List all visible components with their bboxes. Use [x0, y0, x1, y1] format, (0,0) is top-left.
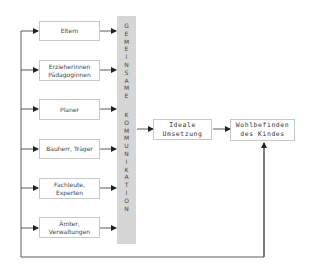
communication-band: GEMEINSAME KOMMUNIKATION	[117, 16, 136, 244]
band-letter: A	[117, 173, 136, 181]
band-letter: O	[117, 197, 136, 205]
box-label: des Kindes	[240, 130, 284, 139]
wohlbefinden-box: Wohlbefinden des Kindes	[230, 119, 295, 141]
source-box-fachleute: Fachleute, Experten	[39, 178, 100, 199]
source-label: Erzieherinnen	[49, 63, 91, 71]
band-letter: G	[117, 22, 136, 30]
band-letter: E	[117, 45, 136, 53]
band-letter: I	[117, 158, 136, 166]
band-letter: K	[117, 166, 136, 174]
band-letter: M	[117, 134, 136, 142]
band-letter: U	[117, 142, 136, 150]
band-letter: M	[117, 38, 136, 46]
band-letter: N	[117, 150, 136, 158]
band-letter: M	[117, 84, 136, 92]
source-label: Verwaltungen	[49, 228, 90, 236]
source-box-planer: Planer	[39, 99, 100, 120]
box-label: Wohlbefinden	[236, 121, 289, 130]
source-box-eltern: Eltern	[39, 21, 100, 41]
source-box-aemter: Ämter, Verwaltungen	[39, 217, 100, 238]
band-letter: T	[117, 181, 136, 189]
source-box-erzieherinnen: Erzieherinnen Pädagoginnen	[39, 60, 100, 81]
band-letter: N	[117, 205, 136, 213]
source-label: Pädagoginnen	[48, 71, 91, 79]
ideale-umsetzung-box: Ideale Umsetzung	[153, 119, 212, 140]
source-label: Experten	[56, 189, 83, 197]
band-letter: E	[117, 30, 136, 38]
band-letter: A	[117, 77, 136, 85]
box-label: Ideale	[169, 121, 196, 130]
band-letter: K	[117, 111, 136, 119]
band-letter: O	[117, 119, 136, 127]
band-letter: N	[117, 61, 136, 69]
band-letter: I	[117, 53, 136, 61]
source-label: Ämter,	[59, 220, 79, 228]
band-word-gemeinsame: GEMEINSAME	[117, 22, 136, 100]
source-label: Fachleute,	[54, 181, 85, 189]
band-letter: E	[117, 92, 136, 100]
source-label: Eltern	[61, 27, 79, 35]
source-label: Planer	[60, 106, 79, 114]
source-box-bauherr: Bauherr, Träger	[39, 139, 100, 159]
source-label: Bauherr, Träger	[46, 145, 93, 153]
band-word-kommunikation: KOMMUNIKATION	[117, 111, 136, 212]
band-letter: M	[117, 127, 136, 135]
box-label: Umsetzung	[162, 130, 202, 139]
band-letter: S	[117, 69, 136, 77]
band-letter: I	[117, 189, 136, 197]
